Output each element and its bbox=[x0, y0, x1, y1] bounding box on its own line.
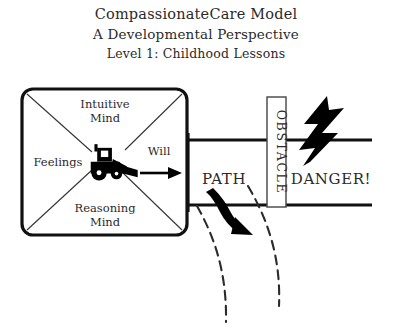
obstacle-marker: OBSTACLE bbox=[267, 97, 289, 207]
title-line-2: A Developmental Perspective bbox=[92, 26, 299, 42]
compassionate-care-model-diagram: CompassionateCare Model A Developmental … bbox=[0, 0, 393, 333]
label-feelings: Feelings bbox=[34, 155, 83, 169]
label-danger: DANGER! bbox=[291, 170, 371, 188]
diagram-canvas: CompassionateCare Model A Developmental … bbox=[0, 0, 393, 333]
title-line-3: Level 1: Childhood Lessons bbox=[107, 46, 286, 61]
label-path: PATH bbox=[202, 170, 246, 188]
label-reasoning-mind-2: Mind bbox=[90, 215, 121, 229]
detour-curve-inner bbox=[197, 206, 226, 322]
title-block: CompassionateCare Model A Developmental … bbox=[92, 6, 299, 61]
curved-detour-arrow-icon bbox=[206, 188, 253, 235]
mind-model-box: Intuitive Mind Feelings Reasoning Mind W… bbox=[22, 89, 187, 235]
label-obstacle: OBSTACLE bbox=[274, 110, 289, 194]
lightning-bolt-icon bbox=[299, 96, 344, 166]
label-reasoning-mind: Reasoning bbox=[75, 201, 137, 215]
label-will: Will bbox=[148, 144, 171, 158]
label-intuitive-mind: Intuitive bbox=[80, 97, 129, 111]
label-intuitive-mind-2: Mind bbox=[90, 111, 121, 125]
title-line-1: CompassionateCare Model bbox=[95, 6, 298, 22]
